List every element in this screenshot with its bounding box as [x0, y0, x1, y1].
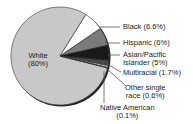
label-black: Black (6.6%) — [123, 23, 166, 31]
label-asian-line2: Islander (5%) — [123, 59, 168, 67]
label-native-line2: (0.1%) — [100, 112, 155, 120]
label-hispanic: Hispanic (6%) — [123, 39, 170, 47]
label-other-line2: race (0.6%) — [125, 92, 165, 100]
label-native: Native American (0.1%) — [100, 104, 155, 120]
label-other: Other single race (0.6%) — [125, 84, 165, 100]
label-white: White (80%) — [28, 52, 48, 68]
label-asian: Asian/Pacific Islander (5%) — [123, 51, 168, 67]
label-multiracial: Multiracial (1.7%) — [123, 69, 181, 77]
label-white-pct: (80%) — [28, 60, 48, 68]
